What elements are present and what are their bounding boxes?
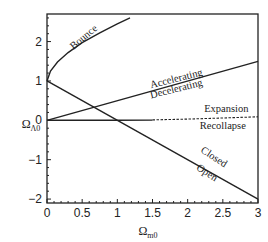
x-tick-label: 0.5 (74, 206, 91, 220)
x-tick-label: 2.5 (214, 206, 231, 220)
y-tick-label: −2 (28, 192, 42, 206)
region-label-recollapse: Recollapse (200, 120, 246, 131)
region-label-open: Open (195, 162, 221, 184)
y-tick-label: 2 (35, 35, 42, 49)
region-label-bounce: Bounce (68, 22, 100, 51)
cosmology-parameter-chart: 00.511.522.53−2−1012 BounceAcceleratingD… (0, 0, 268, 242)
x-tick-label: 1 (114, 206, 121, 220)
x-tick-label: 3 (255, 206, 262, 220)
x-tick-label: 0 (44, 206, 51, 220)
region-label-expansion: Expansion (204, 103, 249, 114)
region-labels: BounceAcceleratingDeceleratingExpansionR… (68, 22, 250, 184)
x-tick-label: 1.5 (144, 206, 161, 220)
x-tick-label: 2 (184, 206, 191, 220)
y-tick-label: −1 (28, 153, 42, 167)
x-axis-title: Ωm0 (138, 224, 157, 240)
y-tick-label: 1 (35, 74, 42, 88)
